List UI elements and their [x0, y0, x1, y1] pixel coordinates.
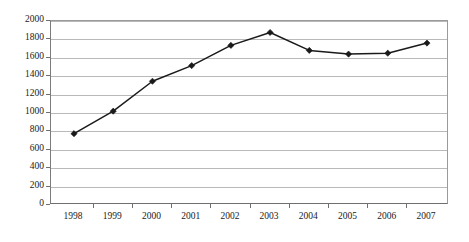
x-tick-label: 2002	[208, 211, 252, 221]
y-tick-label: 1600	[2, 51, 44, 61]
data-point-marker	[306, 47, 312, 53]
x-tick-mark	[250, 204, 251, 208]
x-tick-label: 1999	[90, 211, 134, 221]
x-tick-label: 2000	[129, 211, 173, 221]
x-tick-label: 2004	[286, 211, 330, 221]
y-tick-mark	[46, 20, 50, 21]
y-tick-label: 200	[2, 180, 44, 190]
data-point-marker	[189, 63, 195, 69]
y-tick-mark	[46, 186, 50, 187]
plot-area	[50, 20, 448, 204]
x-tick-mark	[132, 204, 133, 208]
y-tick-mark	[46, 167, 50, 168]
y-tick-label: 1200	[2, 88, 44, 98]
data-point-marker	[424, 40, 430, 46]
x-tick-mark	[210, 204, 211, 208]
y-tick-label: 800	[2, 124, 44, 134]
data-point-marker	[71, 131, 77, 137]
x-tick-label: 2001	[169, 211, 213, 221]
y-tick-label: 1800	[2, 32, 44, 42]
y-tick-label: 1400	[2, 69, 44, 79]
x-tick-mark	[93, 204, 94, 208]
y-tick-label: 400	[2, 161, 44, 171]
y-tick-mark	[46, 112, 50, 113]
x-tick-label: 2006	[365, 211, 409, 221]
x-tick-label: 1998	[51, 211, 95, 221]
y-tick-mark	[46, 38, 50, 39]
x-tick-mark	[406, 204, 407, 208]
y-tick-mark	[46, 149, 50, 150]
line-chart: 0200400600800100012001400160018002000 19…	[0, 0, 469, 242]
data-point-marker	[345, 51, 351, 57]
y-tick-mark	[46, 204, 50, 205]
y-tick-label: 600	[2, 143, 44, 153]
data-point-marker	[267, 29, 273, 35]
y-tick-mark	[46, 75, 50, 76]
x-tick-mark	[328, 204, 329, 208]
series-line	[51, 21, 449, 205]
data-point-marker	[228, 42, 234, 48]
x-tick-label: 2003	[247, 211, 291, 221]
x-tick-mark	[289, 204, 290, 208]
x-tick-label: 2007	[404, 211, 448, 221]
x-tick-mark	[171, 204, 172, 208]
x-tick-label: 2005	[326, 211, 370, 221]
y-tick-label: 1000	[2, 106, 44, 116]
y-tick-label: 0	[2, 198, 44, 208]
data-line	[74, 33, 427, 134]
y-tick-mark	[46, 57, 50, 58]
y-tick-mark	[46, 130, 50, 131]
x-tick-mark	[367, 204, 368, 208]
y-tick-label: 2000	[2, 14, 44, 24]
y-tick-mark	[46, 94, 50, 95]
data-point-marker	[385, 50, 391, 56]
